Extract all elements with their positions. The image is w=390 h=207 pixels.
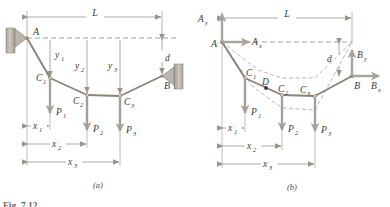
label-P2-sub-a: 2	[100, 129, 104, 136]
label-x3-a: x	[67, 157, 73, 167]
label-C3-b: C	[300, 85, 307, 95]
label-y3-a: y	[107, 61, 113, 71]
label-C1-sub-a: 1	[43, 78, 46, 85]
label-P3-b: P	[320, 125, 327, 135]
label-Ax-b: A	[251, 37, 258, 47]
label-C2-sub-a: 2	[80, 101, 84, 108]
label-x1-sub-a: 1	[39, 126, 42, 133]
label-Ax-sub-b: x	[258, 42, 262, 49]
label-P1-sub-b: 1	[258, 112, 261, 119]
load-P2-a: P 2	[87, 96, 104, 136]
label-B-a: B	[164, 80, 170, 91]
dimension-x1-a: x 1	[28, 119, 49, 133]
label-x2-b: x	[246, 141, 252, 151]
dimension-y3-a: y 3	[107, 40, 120, 94]
label-C1-a: C	[36, 73, 43, 83]
label-C1-b: C	[246, 68, 253, 78]
figure-number-partial: Fig. 7.12	[3, 201, 38, 207]
dimension-x1-b: x 1	[223, 121, 244, 135]
label-y3-sub-a: 3	[113, 66, 118, 73]
dimension-x2-a: x 2	[28, 137, 86, 151]
label-L-a-text: L	[91, 7, 98, 18]
figure-container: L L A B y 1	[0, 0, 390, 207]
label-y2-sub-a: 2	[81, 66, 85, 73]
label-P1-sub-a: 1	[63, 112, 66, 119]
label-x1-b: x	[227, 123, 233, 133]
label-D-b: D	[261, 77, 269, 87]
label-x1-a: x	[32, 121, 38, 131]
label-P2-a: P	[92, 124, 99, 134]
dimension-x2-b: x 2	[223, 139, 281, 153]
label-y2-a: y	[74, 61, 80, 71]
panel-b: L D A y A x A	[197, 8, 381, 192]
dimension-x3-a: x 3	[28, 155, 119, 169]
label-x2-a: x	[51, 139, 57, 149]
dimension-L-b: L	[222, 8, 352, 44]
label-P3-sub-b: 3	[327, 130, 332, 137]
support-A-a	[6, 28, 29, 53]
dimension-d-a: d	[162, 40, 170, 74]
label-By-b: B	[357, 50, 363, 60]
dimension-y1-a: y 1	[50, 40, 64, 77]
caption-panel-a: (a)	[93, 180, 103, 190]
label-P1-a: P	[55, 107, 62, 117]
label-P3-a: P	[125, 125, 132, 135]
label-By-sub-b: y	[363, 55, 367, 62]
label-d-a: d	[165, 53, 170, 63]
label-B-b: B	[354, 80, 360, 91]
label-d-b: d	[327, 54, 332, 64]
label-P3-sub-a: 3	[132, 130, 137, 137]
dimension-y2-a: y 2	[74, 40, 87, 93]
label-Bx-sub-b: x	[377, 86, 381, 93]
dimension-L-a: L L	[27, 6, 162, 40]
load-P3-b: P 3	[315, 97, 332, 137]
label-C3-a: C	[124, 97, 131, 107]
label-A-a: A	[32, 26, 40, 37]
label-P1-b: P	[250, 107, 257, 117]
dashed-alternate-cables-b	[222, 42, 352, 110]
label-P2-b: P	[287, 124, 294, 134]
label-Ay-sub-b: y	[204, 19, 208, 26]
label-y1-a: y	[54, 50, 60, 60]
label-L-b: L	[283, 8, 290, 19]
label-y1-sub-a: 1	[61, 55, 64, 62]
label-C3-sub-a: 3	[130, 102, 135, 109]
label-A-b: A	[210, 38, 218, 49]
cable-diagram-svg: L L A B y 1	[0, 0, 390, 207]
label-C2-a: C	[73, 96, 80, 106]
label-Ay-b: A	[197, 14, 204, 24]
load-P2-b: P 2	[282, 96, 299, 136]
label-x1-sub-b: 1	[234, 128, 237, 135]
label-P2-sub-b: 2	[295, 129, 299, 136]
label-C1-sub-b: 1	[253, 73, 256, 80]
label-C2-b: C	[278, 84, 285, 94]
cable-path-a	[27, 38, 162, 96]
reaction-Ax-b: A x	[222, 37, 262, 49]
dimension-d-b: d	[327, 44, 339, 76]
dimension-x3-b: x 3	[223, 157, 314, 171]
caption-panel-b: (b)	[287, 182, 297, 192]
reaction-Ay-b: A y	[197, 14, 222, 42]
label-Bx-b: B	[371, 81, 377, 91]
label-x3-b: x	[262, 159, 268, 169]
panel-a: L L A B y 1	[6, 6, 183, 190]
cable-path-b	[222, 42, 352, 96]
reaction-By-b: B y	[352, 50, 367, 76]
